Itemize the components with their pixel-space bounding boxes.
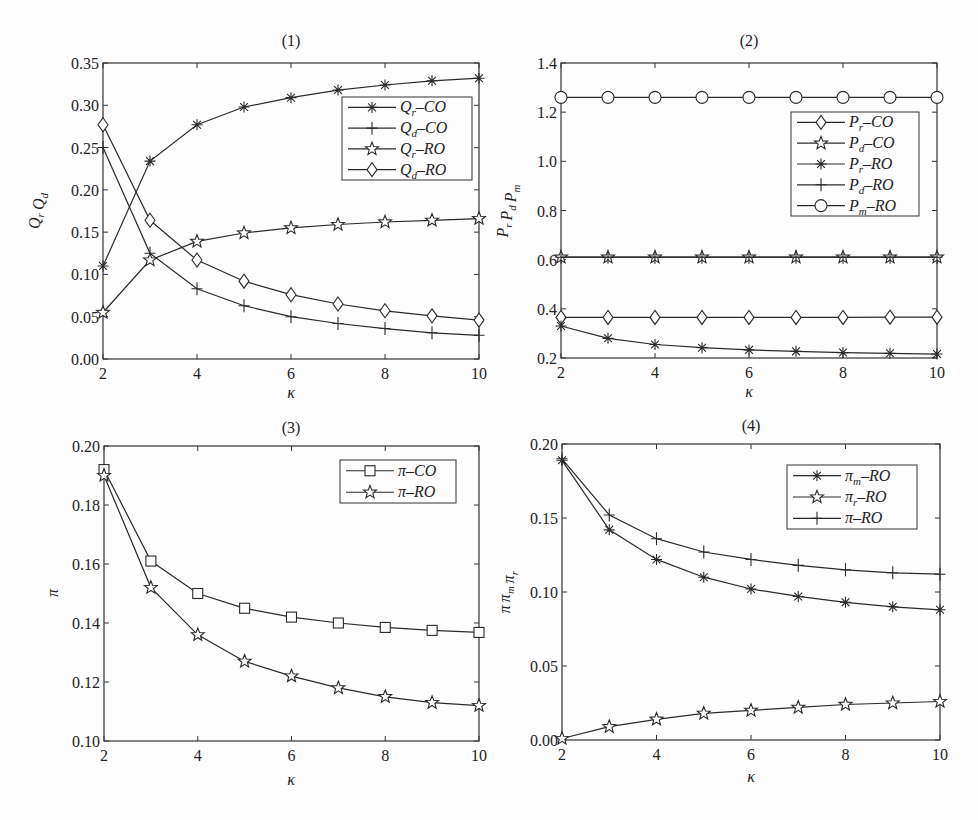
y-tick-label: 0.8 <box>537 203 557 220</box>
x-tick-label: 2 <box>557 364 565 381</box>
panel-1: (1)0.000.050.100.150.200.250.300.3524681… <box>26 32 487 401</box>
asterisk-marker-icon <box>746 584 757 595</box>
legend: π–COπ–RO <box>340 460 456 503</box>
x-tick-label: 4 <box>193 365 201 382</box>
chart-title: (3) <box>282 419 301 437</box>
circle-marker-icon <box>649 91 661 103</box>
square-marker-icon <box>474 627 484 637</box>
x-tick-label: 10 <box>932 746 948 763</box>
star-marker-icon <box>144 253 157 265</box>
asterisk-marker-icon <box>367 102 378 113</box>
panel-4: (4)0.000.050.100.150.20246810κππmπrπm–RO… <box>496 417 948 785</box>
plus-marker-icon <box>840 563 851 576</box>
circle-marker-icon <box>743 91 755 103</box>
chart-title: (2) <box>740 32 759 50</box>
asterisk-marker-icon <box>812 470 823 481</box>
star-marker-icon <box>285 669 298 681</box>
asterisk-marker-icon <box>838 347 849 358</box>
diamond-marker-icon <box>145 213 155 227</box>
x-tick-label: 10 <box>471 747 487 764</box>
star-marker-icon <box>650 713 663 725</box>
asterisk-marker-icon <box>698 572 709 583</box>
plus-marker-icon <box>793 559 804 572</box>
plus-marker-icon <box>333 317 344 330</box>
x-tick-label: 6 <box>745 364 753 381</box>
star-marker-icon <box>697 707 710 719</box>
y-axis-label: π <box>44 588 61 597</box>
diamond-marker-icon <box>744 310 754 324</box>
plus-marker-icon <box>887 566 898 579</box>
square-marker-icon <box>365 466 375 476</box>
diamond-marker-icon <box>474 313 484 327</box>
y-axis-label: QrQd <box>26 193 50 229</box>
star-marker-icon <box>332 218 345 230</box>
x-tick-label: 2 <box>558 746 566 763</box>
diamond-marker-icon <box>239 274 249 288</box>
circle-marker-icon <box>696 91 708 103</box>
plus-marker-icon <box>474 329 485 342</box>
asterisk-marker-icon <box>145 156 156 167</box>
legend-label: Pr–CO <box>848 113 894 133</box>
diamond-marker-icon <box>603 310 613 324</box>
plus-marker-icon <box>380 322 391 335</box>
diamond-marker-icon <box>932 310 942 324</box>
star-marker-icon <box>285 221 298 233</box>
y-tick-label: 0.05 <box>530 658 558 675</box>
star-marker-icon <box>603 720 616 732</box>
plus-marker-icon <box>698 546 709 559</box>
x-axis-label: κ <box>287 771 295 788</box>
y-tick-label: 1.2 <box>537 104 557 121</box>
diamond-marker-icon <box>286 288 296 302</box>
circle-marker-icon <box>555 91 567 103</box>
series-plus <box>556 251 943 264</box>
asterisk-marker-icon <box>816 159 827 170</box>
circle-marker-icon <box>931 91 943 103</box>
x-tick-label: 6 <box>288 747 296 764</box>
x-tick-label: 6 <box>747 746 755 763</box>
square-marker-icon <box>146 556 156 566</box>
y-tick-label: 0.6 <box>537 252 557 269</box>
y-tick-label: 0.30 <box>71 97 99 114</box>
asterisk-marker-icon <box>380 79 391 90</box>
plus-marker-icon <box>651 532 662 545</box>
star-marker-icon <box>379 215 392 227</box>
figure-canvas: (1)0.000.050.100.150.200.250.300.3524681… <box>0 0 978 820</box>
plus-marker-icon <box>286 310 297 323</box>
star-marker-icon <box>426 696 439 708</box>
square-marker-icon <box>380 622 390 632</box>
asterisk-marker-icon <box>791 346 802 357</box>
plus-marker-icon <box>746 553 757 566</box>
y-tick-label: 0.20 <box>72 438 100 455</box>
diamond-marker-icon <box>791 310 801 324</box>
y-tick-label: 0.14 <box>72 615 100 632</box>
legend-label: πm–RO <box>845 467 891 487</box>
asterisk-marker-icon <box>239 101 250 112</box>
diamond-marker-icon <box>427 309 437 323</box>
star-marker-icon <box>886 696 899 708</box>
x-tick-label: 8 <box>842 746 850 763</box>
star-marker-icon <box>792 701 805 713</box>
y-tick-label: 0.00 <box>530 732 558 749</box>
series-diamond <box>556 310 942 324</box>
panel-3: (3)0.100.120.140.160.180.20246810κππ–COπ… <box>44 419 487 788</box>
diamond-marker-icon <box>650 310 660 324</box>
plus-marker-icon <box>935 568 946 581</box>
star-marker-icon <box>839 698 852 710</box>
y-tick-label: 0.10 <box>530 584 558 601</box>
asterisk-marker-icon <box>604 524 615 535</box>
asterisk-marker-icon <box>192 119 203 130</box>
y-tick-label: 0.10 <box>72 733 100 750</box>
plus-marker-icon <box>239 299 250 312</box>
legend-label: π–RO <box>398 483 436 500</box>
y-tick-label: 1.4 <box>537 55 557 72</box>
circle-marker-icon <box>790 91 802 103</box>
y-tick-label: 0.15 <box>71 224 99 241</box>
asterisk-marker-icon <box>286 92 297 103</box>
y-tick-label: 0.2 <box>537 350 557 367</box>
x-tick-label: 4 <box>194 747 202 764</box>
asterisk-marker-icon <box>333 85 344 96</box>
legend-label: Pd–CO <box>848 134 895 154</box>
legend-label: π–RO <box>845 509 883 526</box>
legend: Pr–COPd–COPr–ROPd–ROPm–RO <box>791 112 919 217</box>
x-tick-label: 8 <box>381 365 389 382</box>
